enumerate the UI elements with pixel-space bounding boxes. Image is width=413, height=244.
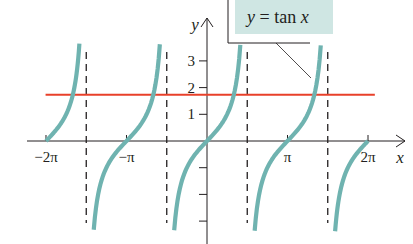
x-axis-label: x — [395, 148, 404, 167]
x-tick-label: 2π — [360, 149, 376, 165]
legend-label: y = tan x — [245, 7, 309, 27]
tan-graph: y = tan x −2π−ππ2π321xy — [0, 0, 413, 244]
y-axis-label: y — [189, 15, 199, 34]
y-tick-label: 3 — [188, 53, 196, 69]
tan-branch — [46, 44, 79, 141]
plot-area: y = tan x −2π−ππ2π321xy — [0, 0, 413, 244]
legend-leader-line — [276, 43, 311, 78]
y-tick-label: 1 — [188, 106, 196, 122]
x-tick-label: −π — [118, 149, 134, 165]
y-tick-label: 2 — [188, 80, 196, 96]
x-tick-label: −2π — [34, 149, 58, 165]
tan-branch — [255, 45, 321, 230]
tick-labels: −2π−ππ2π321xy — [34, 15, 404, 167]
x-tick-label: π — [284, 149, 292, 165]
